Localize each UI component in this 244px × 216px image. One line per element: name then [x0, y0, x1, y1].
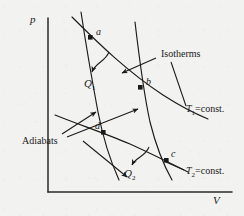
point-d-marker: [101, 130, 106, 135]
point-label-d: d: [95, 121, 100, 131]
t1-rest: =const.: [195, 103, 224, 114]
heat-q1-label: Q1: [84, 78, 95, 92]
q1-symbol: Q: [84, 77, 92, 89]
t2-const-label: T2=const.: [186, 166, 224, 179]
t2-label-leader-line: [166, 162, 184, 170]
point-a-marker: [88, 35, 93, 40]
q1-flow-arrow: [92, 52, 109, 72]
point-label-a: a: [96, 27, 101, 37]
point-b-marker: [138, 85, 143, 90]
q2-symbol: Q: [124, 167, 132, 179]
t2-rest: =const.: [195, 165, 224, 176]
y-axis-label: p: [30, 14, 36, 25]
isotherms-leader-to-t2-line: [171, 62, 186, 106]
t1-const-label: T1=const.: [186, 104, 224, 117]
adiabats-annotation: Adiabats: [22, 136, 58, 146]
isotherms-leader-to-t1-arrow: [122, 58, 156, 73]
adiabats-leader-left-arrow: [62, 112, 96, 134]
q2-subscript: 2: [132, 174, 136, 182]
heat-q2-label: Q2: [124, 168, 135, 182]
isotherms-annotation: Isotherms: [161, 49, 200, 59]
q2-flow-arrow: [132, 147, 149, 165]
q1-subscript: 1: [92, 84, 96, 92]
x-axis-label: V: [213, 195, 220, 206]
point-label-c: c: [171, 149, 175, 159]
adiabats-leader-down-arrow: [83, 141, 127, 177]
point-label-b: b: [146, 77, 151, 87]
point-c-marker: [164, 158, 169, 163]
